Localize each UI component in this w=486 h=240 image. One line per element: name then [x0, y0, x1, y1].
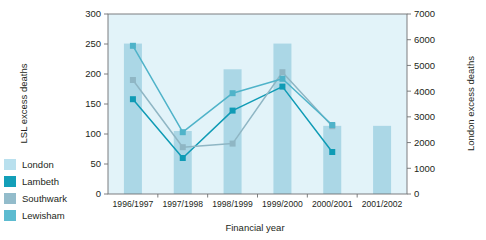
y-tick-label-left: 150 — [85, 98, 101, 109]
plot-background — [108, 14, 407, 194]
marker-southwark — [230, 141, 236, 147]
marker-southwark — [180, 144, 186, 150]
marker-lewisham — [279, 76, 285, 82]
x-tick-label-1996-1997: 1996/1997 — [113, 199, 154, 209]
x-tick-label-2000-2001: 2000/2001 — [312, 199, 353, 209]
y-tick-label-right: 0 — [414, 188, 419, 199]
marker-lewisham — [180, 129, 186, 135]
x-tick-label-1998-1999: 1998/1999 — [212, 199, 253, 209]
y-tick-label-right: 6000 — [414, 34, 435, 45]
x-tick-label-2001-2002: 2001/2002 — [362, 199, 403, 209]
bar-1996-1997 — [124, 44, 142, 194]
marker-southwark — [130, 77, 136, 83]
marker-lambeth — [130, 96, 136, 102]
marker-southwark — [279, 69, 285, 75]
marker-lambeth — [180, 155, 186, 161]
y-tick-label-left: 50 — [90, 158, 101, 169]
marker-lewisham — [130, 43, 136, 49]
marker-lambeth — [279, 84, 285, 90]
marker-lambeth — [230, 108, 236, 114]
x-tick-label-1997-1998: 1997/1998 — [162, 199, 203, 209]
y-tick-label-right: 7000 — [414, 8, 435, 19]
bar-1999-2000 — [273, 44, 291, 194]
y-tick-label-right: 2000 — [414, 137, 435, 148]
x-tick-label-1999-2000: 1999/2000 — [262, 199, 303, 209]
y-tick-label-left: 100 — [85, 128, 101, 139]
y-tick-label-left: 200 — [85, 68, 101, 79]
bar-2001-2002 — [373, 126, 391, 194]
chart-canvas: 0501001502002503000100020003000400050006… — [0, 0, 486, 240]
y-tick-label-right: 5000 — [414, 60, 435, 71]
bar-1998-1999 — [224, 69, 242, 194]
marker-lambeth — [329, 149, 335, 155]
y-tick-label-right: 4000 — [414, 86, 435, 97]
marker-lewisham — [329, 122, 335, 128]
marker-lewisham — [230, 90, 236, 96]
bar-2000-2001 — [323, 126, 341, 194]
y-tick-label-left: 300 — [85, 8, 101, 19]
plot-area: 0501001502002503000100020003000400050006… — [0, 0, 486, 240]
y-tick-label-left: 250 — [85, 38, 101, 49]
y-tick-label-left: 0 — [96, 188, 101, 199]
y-tick-label-right: 3000 — [414, 111, 435, 122]
chart-figure: London Lambeth Southwark Lewisham LSL ex… — [0, 0, 486, 240]
bar-1997-1998 — [174, 131, 192, 194]
y-tick-label-right: 1000 — [414, 163, 435, 174]
